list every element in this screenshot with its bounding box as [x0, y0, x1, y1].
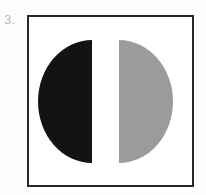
- figure-frame: [27, 15, 194, 187]
- right-half-disc-shape: [119, 40, 173, 163]
- figure-number-label: 3.: [4, 11, 24, 29]
- figure-plate: [29, 17, 192, 185]
- left-half-disc-shape: [38, 40, 92, 163]
- figure-panel: 3.: [0, 0, 206, 195]
